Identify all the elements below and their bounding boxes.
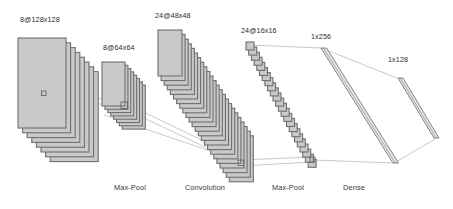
- dense-slab-crease: [323, 48, 395, 163]
- maxpool-2-feature-maps: [246, 42, 316, 167]
- input-feature-maps: [18, 38, 98, 162]
- stage-name-labels-group: Max-PoolConvolutionMax-PoolDense: [114, 183, 365, 192]
- cnn-diagram-canvas: 8@128x1288@64x6424@48x4824@16x161x2561x1…: [0, 0, 453, 209]
- pool2-label: 24@16x16: [241, 26, 277, 35]
- feature-map-plane: [102, 62, 125, 106]
- stage-maxpool-2: Max-Pool: [272, 183, 304, 192]
- cnn-architecture-diagram: 8@128x1288@64x6424@48x4824@16x161x2561x1…: [0, 0, 453, 209]
- input-label: 8@128x128: [20, 15, 60, 24]
- feature-map-plane: [246, 42, 254, 50]
- conv-label: 24@48x48: [155, 11, 191, 20]
- link-pool2-top-to-dense1: [249, 45, 321, 48]
- dense-128-slab: [398, 78, 439, 138]
- feature-map-stacks-group: [18, 30, 316, 182]
- dense2-label: 1x128: [388, 55, 408, 64]
- dense1-label: 1x256: [311, 32, 331, 41]
- convolution-feature-maps: [158, 30, 253, 182]
- dense-layers-group: [321, 48, 439, 163]
- link-dense1-bottom-to-dense2: [394, 139, 435, 163]
- dense-slab-crease: [400, 78, 436, 138]
- stage-maxpool-1: Max-Pool: [114, 183, 146, 192]
- feature-map-plane: [18, 38, 66, 128]
- feature-map-plane: [158, 30, 182, 76]
- stage-convolution: Convolution: [185, 183, 225, 192]
- pool1-label: 8@64x64: [103, 43, 135, 52]
- link-pool2-bottom-to-dense1: [314, 160, 393, 163]
- stage-dense: Dense: [343, 183, 365, 192]
- dense-256-slab: [321, 48, 399, 163]
- maxpool-1-feature-maps: [102, 62, 145, 129]
